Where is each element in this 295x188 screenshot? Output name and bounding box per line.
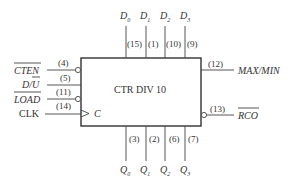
pin-number: (12) — [208, 59, 223, 69]
pin-number: (14) — [56, 101, 71, 111]
signal-label: D/U — [21, 79, 40, 90]
svg-text:D0: D0 — [119, 10, 130, 23]
output-q2: (6) Q2 — [160, 126, 180, 177]
block-title: CTR DIV 10 — [114, 84, 166, 95]
clock-label: C — [94, 108, 101, 119]
input-d1: (1) D1 — [139, 10, 159, 58]
svg-text:D3: D3 — [179, 10, 190, 23]
output-q1: (2) Q1 — [140, 126, 160, 177]
pin-number: (11) — [56, 87, 71, 97]
output-q3: (7) Q3 — [180, 126, 199, 177]
input-d3: (9) D3 — [179, 10, 198, 58]
output-rco: (13) RCO — [201, 104, 259, 121]
svg-text:Q3: Q3 — [180, 164, 190, 177]
pin-number: (15) — [127, 39, 142, 49]
pin-number: (3) — [129, 134, 140, 144]
pin-number: (4) — [58, 58, 69, 68]
signal-label: CLK — [19, 108, 40, 119]
signal-label: RCO — [237, 110, 258, 121]
pin-number: (5) — [60, 73, 71, 83]
signal-label: MAX/MIN — [237, 65, 281, 76]
counter-diagram: CTR DIV 10 C (4) CTEN (5) D/U (11) LOAD … — [0, 0, 295, 188]
pin-number: (9) — [187, 39, 198, 49]
svg-text:Q2: Q2 — [160, 164, 170, 177]
pin-number: (10) — [166, 39, 181, 49]
pin-number: (13) — [210, 104, 225, 114]
svg-text:Q0: Q0 — [120, 164, 130, 177]
signal-label: CTEN — [14, 65, 40, 76]
input-d2: (10) D2 — [159, 10, 181, 58]
svg-text:D2: D2 — [159, 10, 170, 23]
signal-label: LOAD — [13, 94, 41, 105]
input-d0: (15) D0 — [119, 10, 142, 58]
svg-text:Q1: Q1 — [140, 164, 150, 177]
output-q0: (3) Q0 — [120, 126, 140, 177]
inversion-bubble-icon — [201, 112, 206, 117]
pin-number: (1) — [148, 39, 159, 49]
svg-text:D1: D1 — [139, 10, 150, 23]
pin-number: (2) — [149, 134, 160, 144]
inversion-bubble-icon — [75, 96, 80, 101]
pin-number: (7) — [188, 134, 199, 144]
inversion-bubble-icon — [75, 67, 80, 72]
output-max-min: (12) MAX/MIN — [201, 59, 281, 76]
pin-number: (6) — [169, 134, 180, 144]
input-cten: (4) CTEN — [14, 58, 81, 76]
